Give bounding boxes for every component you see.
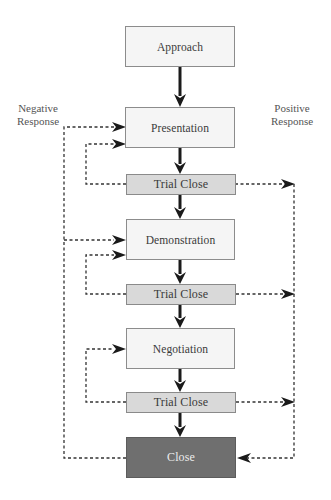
negative-label-line2: Response bbox=[10, 115, 66, 128]
node-trial-close-2-label: Trial Close bbox=[154, 287, 208, 302]
positive-label-line1: Positive bbox=[264, 102, 320, 115]
node-trial-close-3: Trial Close bbox=[126, 392, 236, 413]
negative-label-line1: Negative bbox=[10, 102, 66, 115]
node-close-label: Close bbox=[167, 450, 195, 465]
node-trial-close-1: Trial Close bbox=[126, 174, 236, 195]
node-negotiation: Negotiation bbox=[126, 328, 235, 369]
node-trial-close-3-label: Trial Close bbox=[154, 395, 208, 410]
node-close: Close bbox=[126, 437, 236, 478]
node-trial-close-2: Trial Close bbox=[126, 284, 236, 305]
node-approach-label: Approach bbox=[157, 41, 203, 53]
node-demonstration-label: Demonstration bbox=[146, 234, 216, 246]
positive-response-label: Positive Response bbox=[264, 102, 320, 128]
node-trial-close-1-label: Trial Close bbox=[154, 177, 208, 192]
negative-response-label: Negative Response bbox=[10, 102, 66, 128]
node-presentation-label: Presentation bbox=[151, 122, 209, 134]
node-approach: Approach bbox=[125, 26, 235, 67]
node-presentation: Presentation bbox=[125, 107, 235, 148]
node-negotiation-label: Negotiation bbox=[153, 343, 208, 355]
positive-label-line2: Response bbox=[264, 115, 320, 128]
node-demonstration: Demonstration bbox=[126, 219, 235, 260]
sales-process-flowchart: Negative Response Positive Response Appr… bbox=[0, 0, 331, 500]
